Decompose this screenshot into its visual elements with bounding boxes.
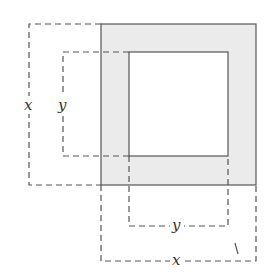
inner-square [129, 52, 228, 156]
pen-mark [235, 243, 238, 254]
label-bottom-x: x [172, 251, 181, 269]
diagram-canvas: x y y x [0, 0, 264, 277]
label-left-x: x [24, 96, 33, 114]
label-bottom-y: y [171, 216, 181, 234]
label-left-y: y [57, 96, 67, 114]
